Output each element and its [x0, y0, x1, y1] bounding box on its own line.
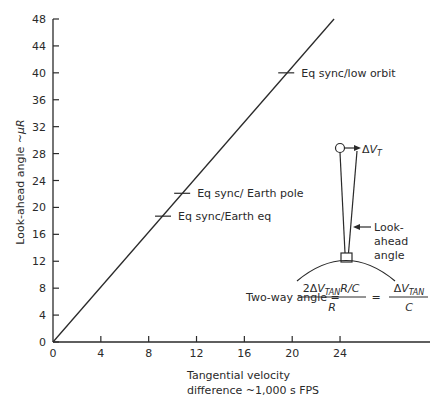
x-axis-label-line2: difference ~1,000 s FPS: [187, 384, 319, 397]
y-tick-label: 16: [32, 228, 46, 241]
y-tick-label: 28: [32, 148, 46, 161]
y-tick-label: 36: [32, 94, 46, 107]
x-axis-label-line1: Tangential velocity: [186, 369, 290, 382]
y-tick-label: 24: [32, 175, 46, 188]
formula: Two-way angle = 2ΔVTANR/C R = ΔVTAN C: [245, 282, 428, 314]
y-tick-label: 40: [32, 67, 46, 80]
x-tick-label: 12: [190, 347, 204, 360]
y-ticks: 04812162024283236404448: [32, 13, 59, 349]
velocity-arrowhead-icon: [354, 145, 361, 151]
formula-denominator-2: C: [405, 301, 413, 314]
annotation-label: Eq sync/Earth eq: [178, 210, 271, 223]
chart: 04812162024283236404448 04812162024 Look…: [0, 0, 445, 407]
y-tick-label: 8: [39, 282, 46, 295]
y-tick-label: 0: [39, 336, 46, 349]
formula-numerator-1: 2ΔVTANR/C: [303, 282, 360, 297]
annotation-label: Eq sync/ Earth pole: [197, 187, 304, 200]
delta-v-label: ΔVT: [362, 143, 383, 158]
y-tick-label: 20: [32, 201, 46, 214]
satellite-icon: [336, 144, 345, 153]
y-tick-label: 12: [32, 255, 46, 268]
y-tick-label: 44: [32, 40, 46, 53]
sightline-right: [349, 151, 358, 253]
annotation-label: Eq sync/low orbit: [301, 67, 396, 80]
x-tick-label: 20: [285, 347, 299, 360]
annotations: Eq sync/low orbitEq sync/ Earth poleEq s…: [155, 67, 396, 223]
y-tick-label: 48: [32, 13, 46, 26]
formula-numerator-2: ΔVTAN: [394, 282, 425, 297]
x-tick-label: 4: [97, 347, 104, 360]
lookahead-label-line2: ahead: [374, 235, 408, 248]
y-axis-label: Look-ahead angle ~μR: [14, 119, 27, 244]
y-tick-label: 32: [32, 121, 46, 134]
x-tick-label: 8: [145, 347, 152, 360]
x-ticks: 04812162024: [50, 336, 348, 360]
sightline-left: [340, 153, 345, 254]
lookahead-label-line1: Look-: [374, 221, 404, 234]
lookahead-arrowhead-icon: [353, 224, 360, 230]
x-tick-label: 16: [237, 347, 251, 360]
lookahead-label-line3: angle: [374, 249, 405, 262]
x-tick-label: 24: [333, 347, 347, 360]
formula-equals: =: [371, 291, 380, 304]
y-tick-label: 4: [39, 309, 46, 322]
formula-denominator-1: R: [328, 301, 336, 314]
x-tick-label: 0: [50, 347, 57, 360]
earth-arc: [297, 261, 395, 282]
